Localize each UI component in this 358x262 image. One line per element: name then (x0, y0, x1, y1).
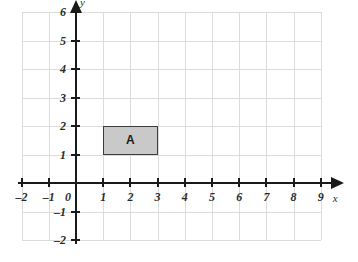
shape-label-a: A (126, 133, 135, 147)
x-tick-mark (48, 178, 50, 187)
x-tick-mark (129, 178, 131, 187)
x-tick-label: 2 (119, 191, 141, 203)
y-axis-label: y (80, 0, 85, 8)
x-tick-label: 4 (174, 191, 196, 203)
x-tick-mark (293, 178, 295, 187)
y-tick-mark (71, 40, 80, 42)
x-tick-label: 6 (228, 191, 250, 203)
x-axis-label: x (333, 192, 338, 204)
y-tick-label: –2 (44, 234, 66, 246)
y-axis-line (75, 2, 77, 244)
x-axis-line (18, 182, 331, 184)
x-tick-label: –2 (11, 191, 33, 203)
grid-line-horizontal (22, 212, 321, 213)
coordinate-plane: –2–10123456789–2–1123456 A x y (0, 0, 358, 262)
x-axis-arrow-icon (331, 177, 344, 189)
y-tick-label: 6 (44, 6, 66, 18)
y-tick-mark (71, 211, 80, 213)
x-tick-mark (265, 178, 267, 187)
x-tick-label: 3 (147, 191, 169, 203)
x-tick-mark (21, 178, 23, 187)
grid-line-horizontal (22, 240, 321, 241)
y-tick-label: 4 (44, 63, 66, 75)
x-tick-label: 9 (310, 191, 332, 203)
y-tick-label: 3 (44, 92, 66, 104)
x-tick-mark (157, 178, 159, 187)
grid-line-horizontal (22, 98, 321, 99)
x-tick-label: 5 (201, 191, 223, 203)
y-tick-mark (71, 125, 80, 127)
x-tick-label: 8 (283, 191, 305, 203)
x-tick-mark (102, 178, 104, 187)
x-tick-mark (184, 178, 186, 187)
y-tick-mark (71, 239, 80, 241)
grid-line-horizontal (22, 69, 321, 70)
y-tick-mark (71, 97, 80, 99)
x-tick-label: 7 (255, 191, 277, 203)
x-tick-label: 0 (57, 191, 79, 203)
y-tick-label: –1 (44, 206, 66, 218)
y-tick-mark (71, 154, 80, 156)
y-tick-label: 1 (44, 149, 66, 161)
grid-line-horizontal (22, 12, 321, 13)
grid-line-horizontal (22, 126, 321, 127)
grid-line-vertical (321, 12, 322, 240)
x-tick-label: 1 (92, 191, 114, 203)
y-tick-label: 5 (44, 35, 66, 47)
y-tick-mark (71, 68, 80, 70)
y-tick-mark (71, 11, 80, 13)
grid-line-horizontal (22, 41, 321, 42)
x-tick-mark (320, 178, 322, 187)
y-tick-label: 2 (44, 120, 66, 132)
x-tick-mark (238, 178, 240, 187)
grid-line-horizontal (22, 155, 321, 156)
x-tick-mark (211, 178, 213, 187)
